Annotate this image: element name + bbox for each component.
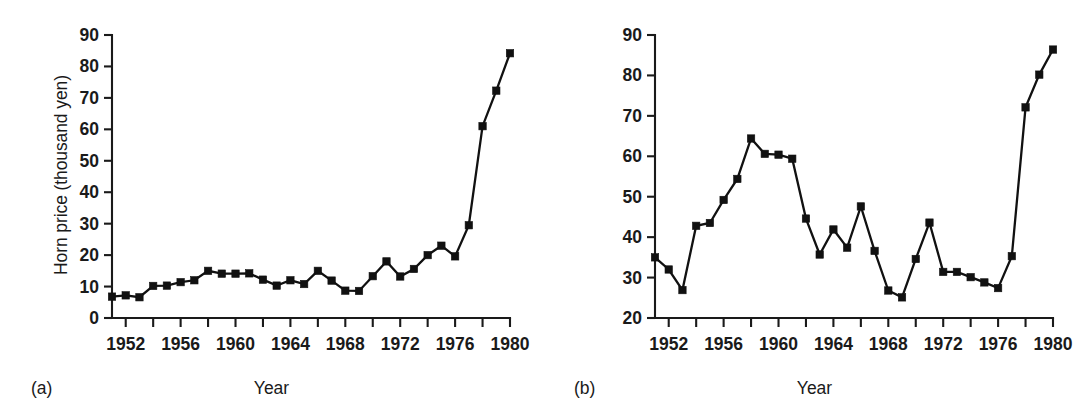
panel-b: 2030405060708090195219561960196419681972…	[543, 0, 1086, 417]
data-point-marker	[734, 175, 741, 182]
data-point-marker	[967, 273, 974, 280]
x-tick-label: 1960	[759, 334, 798, 354]
x-tick-label: 1952	[106, 334, 145, 354]
data-point-marker	[383, 258, 390, 265]
data-point-marker	[191, 277, 198, 284]
x-tick-label: 1960	[216, 334, 255, 354]
data-point-marker	[679, 286, 686, 293]
y-tick-label: 80	[80, 56, 100, 76]
data-point-marker	[720, 196, 727, 203]
data-point-marker	[493, 87, 500, 94]
x-tick-label: 1980	[1034, 334, 1073, 354]
data-point-marker	[981, 279, 988, 286]
data-point-marker	[149, 282, 156, 289]
data-point-marker	[830, 226, 837, 233]
y-tick-label: 60	[623, 146, 643, 166]
data-point-marker	[355, 287, 362, 294]
data-point-marker	[775, 151, 782, 158]
data-point-marker	[328, 277, 335, 284]
y-tick-label: 50	[80, 151, 100, 171]
y-tick-label: 80	[623, 65, 643, 85]
data-point-marker	[843, 244, 850, 251]
data-point-marker	[438, 242, 445, 249]
data-point-marker	[802, 215, 809, 222]
data-point-marker	[479, 122, 486, 129]
series-line	[655, 50, 1053, 298]
data-point-marker	[1022, 104, 1029, 111]
data-point-marker	[898, 294, 905, 301]
data-point-marker	[789, 155, 796, 162]
y-tick-label: 30	[80, 214, 100, 234]
data-point-marker	[994, 284, 1001, 291]
data-point-marker	[108, 293, 115, 300]
data-point-marker	[953, 268, 960, 275]
y-tick-label: 40	[80, 182, 100, 202]
data-point-marker	[665, 266, 672, 273]
data-point-marker	[465, 222, 472, 229]
data-point-marker	[424, 251, 431, 258]
data-point-marker	[506, 50, 513, 57]
figure-container: 0102030405060708090195219561960196419681…	[0, 0, 1086, 417]
x-tick-label: 1980	[491, 334, 530, 354]
data-point-marker	[232, 270, 239, 277]
data-point-marker	[747, 135, 754, 142]
x-tick-label: 1972	[924, 334, 963, 354]
x-tick-label: 1964	[814, 334, 853, 354]
panel-a-plot: 0102030405060708090195219561960196419681…	[0, 0, 543, 417]
y-tick-label: 60	[80, 119, 100, 139]
axis-lines	[655, 35, 1053, 318]
panel-a-caption: (a)	[31, 378, 52, 399]
data-point-marker	[218, 270, 225, 277]
data-point-marker	[1049, 46, 1056, 53]
data-point-marker	[651, 254, 658, 261]
data-point-marker	[857, 203, 864, 210]
y-tick-label: 90	[80, 25, 100, 45]
panel-a: 0102030405060708090195219561960196419681…	[0, 0, 543, 417]
data-point-marker	[300, 280, 307, 287]
data-point-marker	[871, 247, 878, 254]
x-tick-label: 1972	[381, 334, 420, 354]
panel-b-x-axis-label: Year	[543, 378, 1086, 399]
data-point-marker	[410, 265, 417, 272]
panel-b-plot: 2030405060708090195219561960196419681972…	[543, 0, 1086, 417]
data-point-marker	[273, 282, 280, 289]
y-tick-label: 20	[623, 308, 643, 328]
panel-a-y-axis-label: Horn price (thousand yen)	[44, 20, 78, 330]
data-point-marker	[246, 270, 253, 277]
y-tick-label: 50	[623, 187, 643, 207]
data-point-marker	[177, 278, 184, 285]
data-point-marker	[287, 277, 294, 284]
data-point-marker	[706, 219, 713, 226]
y-tick-label: 10	[80, 277, 100, 297]
panel-b-caption: (b)	[574, 378, 595, 399]
y-tick-label: 90	[623, 25, 643, 45]
data-point-marker	[122, 292, 129, 299]
data-point-marker	[692, 222, 699, 229]
x-tick-label: 1976	[979, 334, 1018, 354]
x-tick-label: 1964	[271, 334, 310, 354]
data-point-marker	[451, 253, 458, 260]
y-tick-label: 0	[89, 308, 99, 328]
data-point-marker	[1008, 252, 1015, 259]
data-point-marker	[259, 276, 266, 283]
x-tick-label: 1956	[704, 334, 743, 354]
data-point-marker	[885, 287, 892, 294]
x-tick-label: 1976	[436, 334, 475, 354]
data-point-marker	[163, 282, 170, 289]
data-point-marker	[397, 273, 404, 280]
data-point-marker	[926, 219, 933, 226]
x-tick-label: 1956	[161, 334, 200, 354]
data-point-marker	[136, 294, 143, 301]
axis-lines	[112, 35, 510, 318]
data-point-marker	[204, 267, 211, 274]
x-tick-label: 1952	[649, 334, 688, 354]
series-line	[112, 53, 510, 297]
data-point-marker	[369, 272, 376, 279]
y-tick-label: 70	[80, 88, 100, 108]
y-tick-label: 40	[623, 227, 643, 247]
data-point-marker	[1036, 71, 1043, 78]
data-point-marker	[342, 287, 349, 294]
data-point-marker	[816, 251, 823, 258]
data-point-marker	[314, 267, 321, 274]
x-tick-label: 1968	[326, 334, 365, 354]
